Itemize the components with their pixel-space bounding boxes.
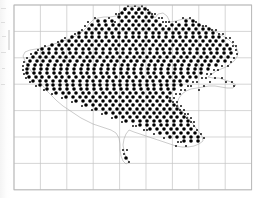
record-dot [164, 35, 168, 39]
record-dot [117, 31, 121, 35]
record-dot [84, 43, 88, 47]
record-dot [108, 107, 112, 111]
record-dot [132, 87, 136, 91]
record-dot [148, 47, 152, 51]
record-dot [135, 125, 137, 127]
record-dot [162, 107, 166, 111]
record-dot [154, 39, 158, 43]
record-dot [215, 29, 217, 31]
record-dot [141, 75, 145, 79]
record-dot [198, 89, 200, 91]
record-dot [137, 23, 141, 27]
record-dot [193, 125, 195, 127]
record-dot [123, 153, 125, 155]
record-dot [48, 59, 52, 63]
record-dot [98, 95, 102, 99]
record-dot [135, 99, 139, 103]
record-dot [161, 75, 165, 79]
record-dot [135, 107, 139, 111]
record-dot [203, 137, 205, 139]
record-dot [165, 21, 167, 23]
record-dot [121, 91, 125, 95]
record-dot [165, 83, 169, 87]
record-dot [126, 67, 130, 71]
record-dot [184, 35, 188, 39]
record-dot [168, 39, 172, 43]
scan-fleck [1, 52, 6, 53]
record-dot [114, 47, 118, 51]
record-dot [84, 31, 88, 35]
record-dot [232, 41, 234, 43]
record-dot [147, 9, 149, 11]
record-dot [73, 63, 77, 67]
record-dot [114, 75, 118, 79]
record-dot [71, 101, 73, 103]
record-dot [25, 71, 29, 75]
record-dot [67, 39, 71, 43]
record-dot [114, 39, 118, 43]
record-dot [118, 111, 122, 115]
record-dot [173, 63, 177, 67]
record-dot [158, 55, 162, 59]
record-dot [145, 111, 149, 115]
record-dot [38, 71, 42, 75]
record-dot [132, 67, 136, 71]
record-dot [185, 145, 187, 147]
record-dot [149, 59, 153, 63]
record-dot [182, 127, 186, 131]
record-dot [225, 81, 227, 83]
record-dot [125, 103, 129, 107]
record-dot [122, 59, 126, 63]
record-dot [124, 15, 128, 19]
record-dot [175, 51, 179, 55]
record-dot [148, 99, 152, 103]
record-dot [94, 51, 98, 55]
record-dot [214, 63, 218, 67]
record-dot [199, 71, 203, 75]
record-dot [151, 43, 155, 47]
record-dot [159, 67, 163, 71]
record-dot [101, 113, 103, 115]
record-dot [71, 83, 75, 87]
record-dot [54, 75, 58, 79]
record-dot [158, 17, 160, 19]
record-dot [165, 25, 167, 27]
record-dot [108, 17, 110, 19]
record-dot [151, 35, 155, 39]
distribution-map-figure [0, 0, 265, 198]
record-dot [159, 123, 163, 127]
record-dot [58, 79, 62, 83]
record-dot [101, 91, 105, 95]
record-dot [165, 55, 169, 59]
record-dot [45, 87, 49, 91]
record-dot [182, 139, 186, 143]
record-dot [104, 23, 108, 27]
record-dot [66, 63, 70, 67]
record-dot [25, 77, 27, 79]
record-dot [176, 105, 178, 107]
record-dot [161, 91, 165, 95]
record-dot [211, 43, 215, 47]
record-dot [114, 27, 118, 31]
record-dot [172, 87, 176, 91]
record-dot [152, 119, 156, 123]
record-dot [111, 95, 115, 99]
record-dot [111, 23, 115, 27]
record-dot [189, 135, 193, 139]
record-dot [125, 79, 129, 83]
record-dot [107, 27, 111, 31]
record-dot [181, 39, 185, 43]
record-dot [137, 7, 141, 11]
record-dot [54, 47, 58, 51]
record-dot [158, 111, 162, 115]
record-dot [172, 119, 176, 123]
record-dot [168, 107, 172, 111]
record-dot [72, 87, 76, 91]
record-dot [115, 59, 119, 63]
record-dot [141, 51, 145, 55]
record-dot [147, 19, 151, 23]
record-dot [121, 107, 125, 111]
record-dot [151, 23, 155, 27]
record-dot [151, 103, 155, 107]
record-dot [201, 27, 205, 31]
